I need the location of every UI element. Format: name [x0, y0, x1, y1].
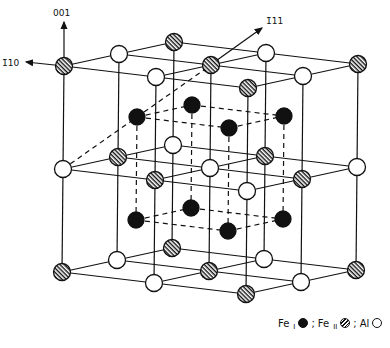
al-atom-icon — [111, 46, 128, 63]
lattice-edge — [62, 272, 154, 283]
fe2-atom-icon — [54, 264, 71, 281]
fe2-atom-icon — [203, 57, 220, 74]
lattice-edge — [264, 259, 356, 270]
fe1-atom-icon — [129, 109, 145, 125]
fe2-atom-icon — [348, 262, 365, 279]
fe1-atom-icon — [183, 200, 199, 216]
lattice-edge — [357, 64, 358, 167]
legend-sep: ; — [311, 318, 314, 329]
lattice-edge — [246, 191, 247, 294]
al-atom-icon — [239, 183, 256, 200]
lattice-edge — [192, 105, 284, 116]
lattice-edge — [136, 220, 228, 231]
al-atom-icon — [293, 274, 310, 291]
al-atom-icon — [165, 137, 182, 154]
lattice-edge — [301, 179, 302, 282]
lattice-edge — [209, 168, 210, 271]
lattice-edge — [155, 180, 247, 191]
lattice-edge — [172, 145, 173, 248]
lattice-edge — [118, 54, 119, 157]
fe2-atom-icon — [164, 240, 181, 257]
legend-fe1-text: Fe — [278, 318, 289, 329]
legend-fe2-text: Fe — [318, 318, 329, 329]
lattice-edge — [191, 208, 283, 219]
fe1-filled-circle-icon — [298, 318, 308, 328]
fe2-atom-icon — [240, 80, 257, 97]
lattice-edge — [64, 66, 156, 77]
lattice-edge — [156, 77, 248, 88]
fe2-atom-icon — [350, 56, 367, 73]
lattice-edge — [174, 42, 266, 53]
lattice-edge — [247, 88, 248, 191]
al-atom-icon — [146, 275, 163, 292]
lattice-edge — [63, 66, 64, 169]
fe1-atom-icon — [128, 212, 144, 228]
lattice-edge — [173, 42, 174, 145]
lattice-edge — [302, 76, 303, 179]
axis-1-10-label: 1̄10 — [2, 58, 19, 68]
al-atom-icon — [202, 160, 219, 177]
lattice-edge — [154, 180, 155, 283]
fe2-atom-icon — [238, 286, 255, 303]
al-atom-icon — [148, 69, 165, 86]
lattice-edge — [137, 117, 229, 128]
al-open-circle-icon — [372, 318, 382, 328]
fe2-atom-icon — [56, 58, 73, 75]
legend: FeI ; FeII ; Al — [278, 313, 390, 333]
lattice-edge — [62, 169, 63, 272]
fe1-atom-icon — [276, 108, 292, 124]
lattice-edge — [264, 156, 265, 259]
lattice-edge — [117, 260, 209, 271]
legend-fe1-sub: I — [293, 323, 295, 331]
lattice-edge — [209, 271, 301, 282]
lattice-drawing: 001 1̄10 1̄11 — [0, 0, 390, 348]
lattice-edge — [211, 65, 303, 76]
lattice-edge — [265, 53, 266, 156]
atoms — [54, 34, 367, 303]
lattice-edge — [210, 65, 211, 168]
al-atom-icon — [109, 252, 126, 269]
legend-fe2-sub: II — [333, 323, 337, 331]
lattice-edge — [266, 53, 358, 64]
lattice-edge — [191, 105, 192, 208]
fe1-atom-icon — [275, 211, 291, 227]
fe1-atom-icon — [221, 120, 237, 136]
legend-al-text: Al — [360, 318, 370, 329]
crystal-diagram: 001 1̄10 1̄11 FeI ; FeII ; Al — [0, 0, 390, 348]
lattice-edge — [119, 54, 211, 65]
legend-sep: ; — [353, 318, 356, 329]
lattice-edge — [228, 128, 229, 231]
lattice-edge — [210, 168, 302, 179]
axis-001-label: 001 — [53, 8, 70, 18]
fe2-atom-icon — [201, 263, 218, 280]
al-atom-icon — [258, 45, 275, 62]
lattice-edge — [154, 283, 246, 294]
lattice-edge — [172, 248, 264, 259]
lattice-edge — [155, 77, 156, 180]
fe1-atom-icon — [184, 97, 200, 113]
fe2-atom-icon — [257, 148, 274, 165]
al-atom-icon — [349, 159, 366, 176]
al-atom-icon — [256, 251, 273, 268]
lattice-edge — [173, 145, 265, 156]
lattice-edge — [118, 157, 210, 168]
al-atom-icon — [55, 161, 72, 178]
lattice-edge — [117, 157, 118, 260]
axis-111-label: 1̄11 — [266, 16, 283, 26]
fe2-atom-icon — [147, 172, 164, 189]
fe2-hatched-circle-icon — [340, 318, 350, 328]
fe1-atom-icon — [220, 223, 236, 239]
lattice-edge — [136, 117, 137, 220]
fe2-atom-icon — [110, 149, 127, 166]
fe2-atom-icon — [294, 171, 311, 188]
lattice-edge — [356, 167, 357, 270]
lattice-edge — [63, 169, 155, 180]
axis-111-arrow — [213, 28, 262, 63]
al-atom-icon — [295, 68, 312, 85]
lattice-edge — [283, 116, 284, 219]
fe2-atom-icon — [166, 34, 183, 51]
lattice-edge — [265, 156, 357, 167]
